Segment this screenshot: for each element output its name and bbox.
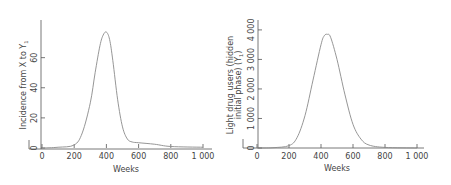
incidence-curve [42, 32, 203, 148]
y-tick-label: 0 [247, 145, 256, 150]
x-tick-label: 200 [67, 152, 82, 161]
x-ticks: 02004006008001 000 [254, 144, 428, 161]
x-tick-label: 400 [313, 152, 328, 161]
x-tick-label: 1 000 [192, 152, 215, 161]
x-tick-label: 1 000 [406, 152, 429, 161]
y-tick-label: 3 000 [247, 48, 256, 71]
charts-canvas: 02004006008001 000 0204060 Weeks Inciden… [0, 0, 451, 185]
x-tick-label: 800 [163, 152, 178, 161]
incidence-chart: 02004006008001 000 0204060 Weeks Inciden… [19, 20, 214, 174]
x-tick-label: 200 [281, 152, 296, 161]
y-tick-label: 20 [30, 113, 39, 123]
y-tick-label: 1 000 [247, 107, 256, 130]
x-tick-label: 400 [99, 152, 114, 161]
light-drug-users-chart: 02004006008001 000 01 0002 0003 0004 000… [226, 18, 428, 173]
x-axis-label: Weeks [113, 165, 139, 174]
x-tick-label: 0 [254, 152, 259, 161]
y-tick-label: 40 [30, 83, 39, 93]
y-tick-label: 2 000 [247, 77, 256, 100]
x-tick-label: 800 [377, 152, 392, 161]
x-tick-label: 600 [345, 152, 360, 161]
light-users-curve [257, 34, 417, 148]
y-ticks: 01 0002 0003 0004 000 [247, 18, 262, 150]
y-axis-label-line2: initial phase) (Y1) [234, 51, 244, 120]
y-tick-label: 0 [30, 145, 39, 150]
x-tick-label: 600 [131, 152, 146, 161]
y-tick-label: 60 [30, 53, 39, 63]
x-tick-label: 0 [39, 152, 44, 161]
y-tick-label: 4 000 [247, 18, 256, 41]
y-axis-label: Incidence from X to Y1 [19, 41, 29, 130]
x-axis-label: Weeks [324, 164, 350, 173]
y-ticks: 0204060 [30, 53, 45, 151]
